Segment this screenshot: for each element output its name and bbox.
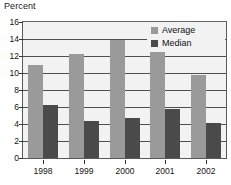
y-axis-tick-label: 16: [10, 18, 19, 27]
y-axis-tick-label: 14: [10, 35, 19, 44]
x-axis-tick-labels: 19981999200020012002: [22, 164, 227, 178]
y-axis-tick-labels: 0246810121416: [0, 0, 19, 185]
y-axis-tick-label: 12: [10, 52, 19, 61]
bar-average-1998: [28, 65, 43, 158]
bar-average-1999: [69, 54, 84, 158]
bar-average-2000: [110, 40, 125, 158]
y-axis-tick-mark: [19, 158, 23, 159]
x-axis-tick-label: 2001: [156, 166, 175, 176]
x-axis-tick-mark: [165, 160, 166, 164]
bar-average-2001: [150, 50, 165, 158]
x-axis-tick-label: 1999: [75, 166, 94, 176]
chart-legend: AverageMedian: [147, 22, 225, 52]
x-axis-tick-label: 1998: [34, 166, 53, 176]
bar-chart: Percent 0246810121416 199819992000200120…: [0, 0, 231, 185]
y-axis-tick-mark: [19, 73, 23, 74]
y-axis-tick-mark: [19, 39, 23, 40]
bar-median-2001: [165, 109, 180, 158]
y-axis-tick-label: 10: [10, 69, 19, 78]
y-axis-tick-mark: [19, 22, 23, 23]
legend-swatch-icon: [151, 27, 158, 34]
legend-swatch-icon: [151, 40, 158, 47]
x-axis-tick-label: 2002: [197, 166, 216, 176]
y-axis-tick-mark: [19, 90, 23, 91]
bar-average-2002: [191, 75, 206, 158]
x-axis-tick-label: 2000: [116, 166, 135, 176]
legend-label: Average: [162, 26, 195, 35]
bar-median-1998: [43, 105, 58, 158]
y-axis-tick-mark: [19, 141, 23, 142]
bar-median-1999: [84, 121, 99, 158]
bar-median-2002: [206, 123, 221, 158]
legend-item-average: Average: [151, 24, 222, 37]
y-axis-tick-mark: [19, 107, 23, 108]
bar-median-2000: [125, 118, 140, 158]
x-axis-tick-mark: [43, 160, 44, 164]
y-axis-tick-mark: [19, 56, 23, 57]
legend-label: Median: [162, 39, 192, 48]
y-axis-tick-mark: [19, 124, 23, 125]
x-axis-tick-mark: [125, 160, 126, 164]
legend-item-median: Median: [151, 37, 222, 50]
x-axis-tick-mark: [206, 160, 207, 164]
x-axis-tick-mark: [84, 160, 85, 164]
